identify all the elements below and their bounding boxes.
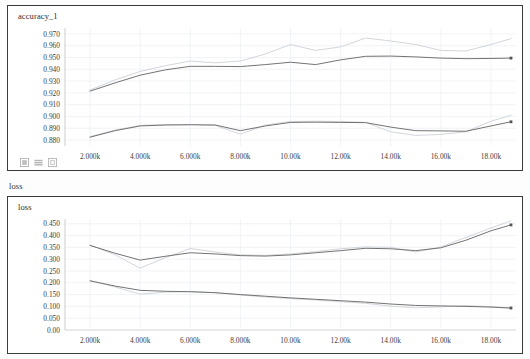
- series-endpoint-marker: [510, 57, 513, 60]
- y-tick-label: 0.00: [47, 326, 60, 335]
- y-tick-label: 0.910: [43, 100, 60, 109]
- x-tick-label: 12.00k: [330, 152, 351, 161]
- y-tick-label: 0.300: [43, 255, 60, 264]
- data-table-icon[interactable]: [34, 158, 43, 167]
- y-tick-label: 0.950: [43, 53, 60, 62]
- series-line: [90, 122, 511, 137]
- loss-section-label: loss: [9, 181, 23, 191]
- series-endpoint-marker: [510, 307, 513, 310]
- loss-chart-panel[interactable]: loss 0.000.0500.1000.1500.2000.2500.3000…: [7, 196, 523, 354]
- y-tick-label: 0.960: [43, 41, 60, 50]
- x-tick-label: 14.00k: [381, 152, 402, 161]
- scalars-dashboard: accuracy_1 0.8800.8900.9000.9100.9200.93…: [0, 0, 530, 359]
- accuracy-chart-panel[interactable]: accuracy_1 0.8800.8900.9000.9100.9200.93…: [7, 5, 523, 171]
- x-tick-label: 2.000k: [80, 152, 101, 161]
- y-tick-label: 0.200: [43, 278, 60, 287]
- expand-chart-icon[interactable]: [20, 158, 29, 167]
- x-tick-label: 8.000k: [230, 336, 251, 345]
- y-tick-label: 0.050: [43, 314, 60, 323]
- accuracy-plot[interactable]: 0.8800.8900.9000.9100.9200.9300.9400.950…: [8, 6, 522, 169]
- x-tick-label: 10.00k: [280, 336, 301, 345]
- y-tick-label: 0.250: [43, 267, 60, 276]
- fit-domain-icon[interactable]: [48, 158, 57, 167]
- series-line: [90, 56, 511, 91]
- y-tick-label: 0.920: [43, 89, 60, 98]
- y-tick-label: 0.900: [43, 112, 60, 121]
- x-tick-label: 12.00k: [330, 336, 351, 345]
- x-tick-label: 4.000k: [130, 152, 151, 161]
- y-tick-label: 0.450: [43, 219, 60, 228]
- x-tick-label: 4.000k: [130, 336, 151, 345]
- y-tick-label: 0.880: [43, 136, 60, 145]
- series-line: [90, 221, 511, 268]
- x-tick-label: 2.000k: [80, 336, 101, 345]
- y-tick-label: 0.400: [43, 231, 60, 240]
- y-tick-label: 0.350: [43, 243, 60, 252]
- x-tick-label: 14.00k: [381, 336, 402, 345]
- x-tick-label: 18.00k: [481, 152, 502, 161]
- y-tick-label: 0.890: [43, 124, 60, 133]
- loss-plot[interactable]: 0.000.0500.1000.1500.2000.2500.3000.3500…: [8, 197, 522, 352]
- accuracy-chart-toolbar[interactable]: [20, 158, 57, 167]
- series-endpoint-marker: [510, 224, 513, 227]
- series-endpoint-marker: [510, 120, 513, 123]
- y-tick-label: 0.100: [43, 302, 60, 311]
- x-tick-label: 8.000k: [230, 152, 251, 161]
- x-tick-label: 10.00k: [280, 152, 301, 161]
- y-tick-label: 0.150: [43, 290, 60, 299]
- series-line: [90, 115, 511, 136]
- y-tick-label: 0.930: [43, 77, 60, 86]
- x-tick-label: 6.000k: [180, 336, 201, 345]
- x-tick-label: 6.000k: [180, 152, 201, 161]
- x-tick-label: 16.00k: [431, 152, 452, 161]
- x-tick-label: 18.00k: [481, 336, 502, 345]
- y-tick-label: 0.970: [43, 30, 60, 39]
- x-tick-label: 16.00k: [431, 336, 452, 345]
- y-tick-label: 0.940: [43, 65, 60, 74]
- series-line: [90, 225, 511, 260]
